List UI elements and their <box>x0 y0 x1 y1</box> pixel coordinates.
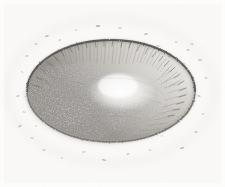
engraving-plate: Monochrome stipple-and-line engraving of… <box>0 0 225 187</box>
central-highlight <box>88 72 156 112</box>
crater-illustration <box>0 0 225 187</box>
